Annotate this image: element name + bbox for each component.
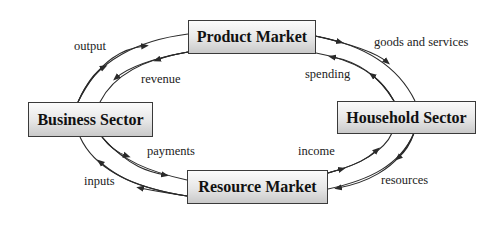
business-sector-label: Business Sector: [37, 111, 143, 129]
output-label: output: [74, 39, 106, 54]
household-sector-box: Household Sector: [337, 101, 476, 134]
product-market-box: Product Market: [188, 20, 316, 54]
goods-and-services-label: goods and services: [374, 35, 468, 50]
resource-market-label: Resource Market: [198, 178, 316, 196]
payments-label: payments: [147, 144, 195, 159]
resource-market-box: Resource Market: [187, 170, 328, 204]
income-label: income: [298, 144, 335, 159]
resources-label: resources: [381, 173, 428, 188]
income-arrow: [328, 133, 392, 173]
inputs-label: inputs: [84, 174, 115, 189]
product-market-label: Product Market: [197, 28, 307, 46]
household-sector-label: Household Sector: [346, 109, 466, 127]
business-sector-box: Business Sector: [28, 102, 153, 137]
spending-label: spending: [305, 67, 350, 82]
revenue-label: revenue: [141, 72, 181, 87]
